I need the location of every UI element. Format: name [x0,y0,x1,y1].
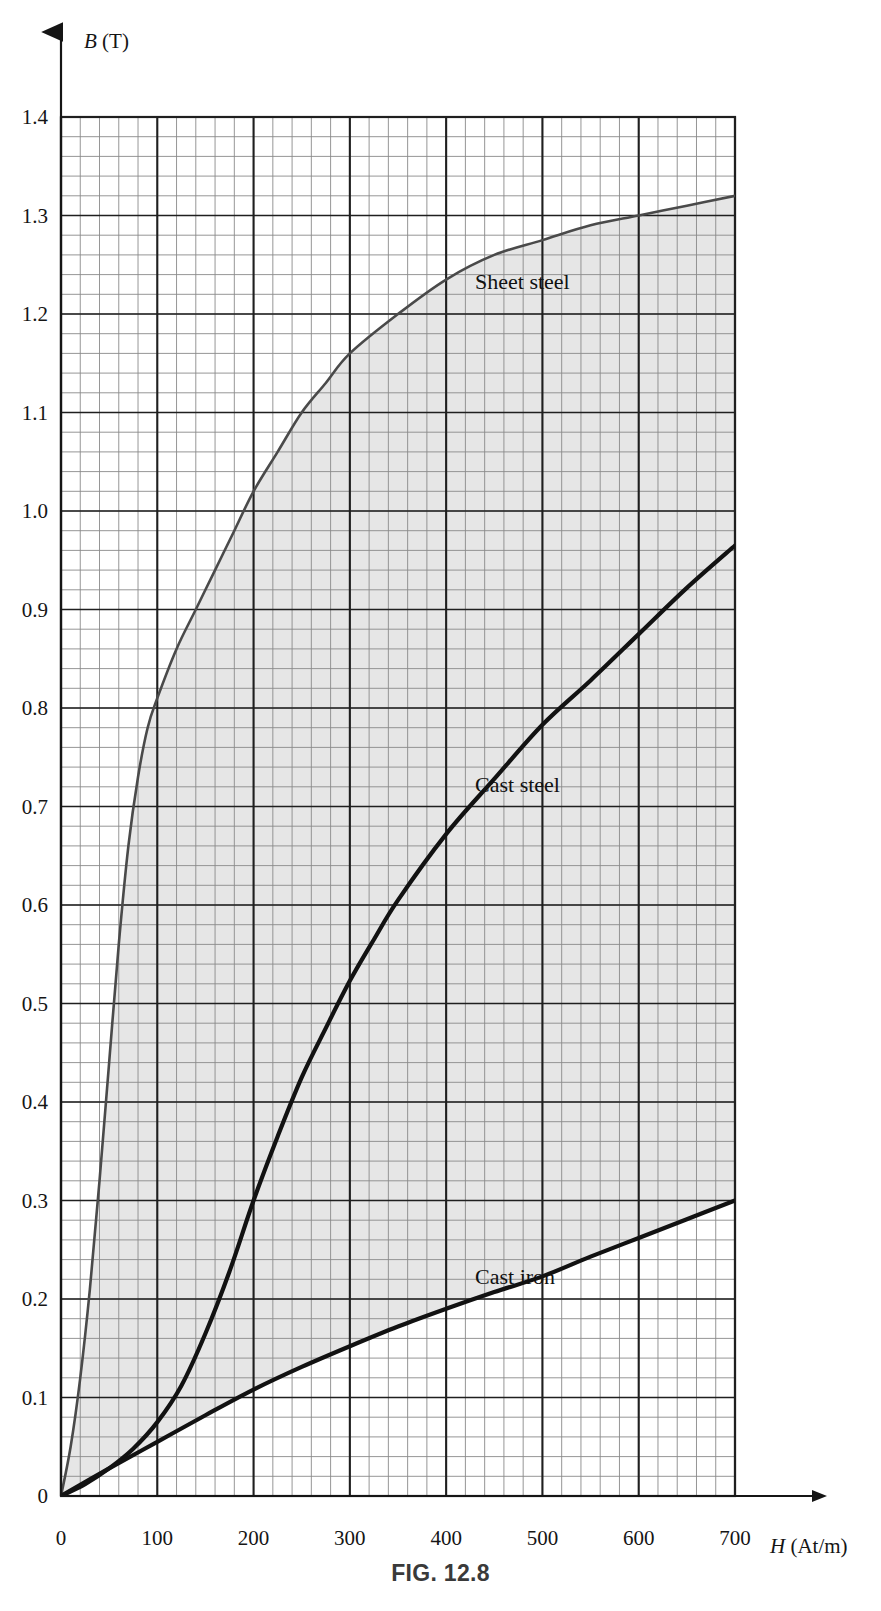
x-tick-labels: 0100200300400500600700 [56,1526,751,1550]
y-tick-label: 0.6 [22,893,48,917]
y-tick-label: 0.3 [22,1189,48,1213]
x-tick-label: 200 [238,1526,270,1550]
x-tick-label: 100 [142,1526,174,1550]
figure-caption: FIG. 12.8 [0,1560,881,1587]
y-tick-label: 0.7 [22,795,48,819]
y-tick-label: 0 [38,1484,49,1508]
y-axis-title-variable: B [84,29,97,53]
curve-label-cast-steel: Cast steel [475,772,560,797]
x-tick-label: 300 [334,1526,366,1550]
x-tick-label: 700 [719,1526,751,1550]
y-tick-labels: 00.10.20.30.40.50.60.70.80.91.01.11.21.3… [22,105,49,1508]
curve-label-cast-iron: Cast iron [475,1264,555,1289]
y-axis-title: B (T) [84,29,129,53]
y-tick-label: 0.9 [22,598,48,622]
x-tick-label: 500 [527,1526,559,1550]
curve-label-sheet-steel: Sheet steel [475,269,570,294]
y-tick-label: 0.5 [22,992,48,1016]
x-axis-title-unit: (At/m) [785,1534,847,1558]
x-tick-label: 600 [623,1526,655,1550]
y-axis-title-unit: (T) [97,29,129,53]
x-tick-label: 0 [56,1526,67,1550]
y-tick-label: 1.3 [22,204,48,228]
y-tick-label: 1.2 [22,302,48,326]
y-tick-label: 1.1 [22,401,48,425]
x-axis-title: H (At/m) [769,1534,848,1558]
y-tick-label: 1.0 [22,499,48,523]
magnetization-curve-chart: 00.10.20.30.40.50.60.70.80.91.01.11.21.3… [0,0,881,1611]
figure-container: 00.10.20.30.40.50.60.70.80.91.01.11.21.3… [0,0,881,1611]
x-tick-label: 400 [430,1526,462,1550]
y-tick-label: 0.8 [22,696,48,720]
y-tick-label: 0.4 [22,1090,49,1114]
y-tick-label: 0.1 [22,1386,48,1410]
y-tick-label: 1.4 [22,105,49,129]
y-tick-label: 0.2 [22,1287,48,1311]
